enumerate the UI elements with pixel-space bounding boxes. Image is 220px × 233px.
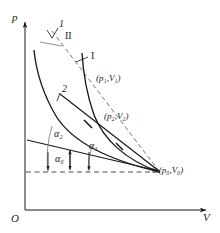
- origin-label: O: [11, 213, 19, 224]
- tick-curve-1-upper: [47, 30, 52, 38]
- leader-II: [40, 42, 62, 46]
- state-point-1-label: (p₁,V₁): [96, 74, 121, 83]
- tick-mark-lower: [116, 143, 123, 150]
- figure-canvas: p V O 1 II I 2 (p₁,V₁) (p₂,V₂) 0 (p₀,V₀)…: [0, 0, 220, 233]
- curve-2-label: 2: [62, 84, 67, 94]
- state-point-0-label: 0 (p₀,V₀): [152, 166, 183, 175]
- pressure-axis-label: p: [12, 12, 18, 23]
- curve-1-label: 1: [59, 19, 64, 29]
- branch-I-label: I: [91, 51, 94, 61]
- branch-II-label: II: [65, 31, 72, 41]
- state-point-2-label: (p₂,V₂): [104, 112, 129, 121]
- curve-2-branch-II: [34, 50, 160, 172]
- tick-mark-mid: [84, 120, 92, 128]
- curve-2-leader: [57, 93, 60, 101]
- tick-curve-1-upper-b: [52, 28, 58, 38]
- volume-axis-label: V: [203, 212, 210, 223]
- angle-alpha2-label: α₂: [54, 129, 63, 139]
- angle-alpha0-label: α₀: [55, 154, 64, 164]
- angle-alpha1-label: α₁: [89, 141, 98, 151]
